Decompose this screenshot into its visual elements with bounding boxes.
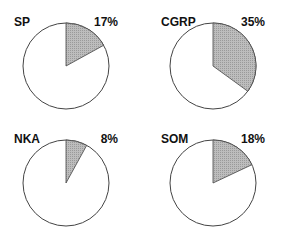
pie-title: NKA [14, 132, 40, 146]
pie-percent-label: 35% [241, 15, 265, 29]
pie-percent-label: 18% [241, 132, 265, 146]
pie-percent-label: 17% [94, 15, 118, 29]
pie-title: CGRP [161, 15, 196, 29]
pie-som: SOM 18% [161, 132, 265, 226]
pie-title: SOM [161, 132, 188, 146]
pie-nka: NKA 8% [14, 132, 118, 226]
pie-percent-label: 8% [101, 132, 119, 146]
pie-sp: SP 17% [14, 15, 118, 109]
pie-cgrp: CGRP 35% [161, 15, 265, 109]
pie-chart-grid: SP 17% CGRP 35% NKA 8% SOM 18% [0, 0, 281, 236]
pie-title: SP [14, 15, 30, 29]
